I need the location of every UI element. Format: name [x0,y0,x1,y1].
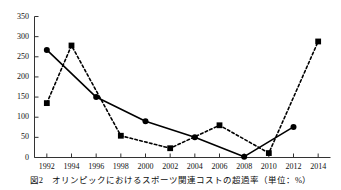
y-axis-label-300: 300 [3,32,29,41]
summer-games-series-marker [291,124,297,130]
x-axis-label-2014: 2014 [303,162,333,171]
winter-games-series-marker [69,43,75,49]
figure-container: 050100150200250300350 199219941996199820… [0,0,341,190]
summer-games-series-marker [93,94,99,100]
y-axis-label-350: 350 [3,12,29,21]
winter-games-series-marker [266,150,272,156]
winter-games-series-marker [217,122,223,128]
caption-text: 図2 オリンピックにおけるスポーツ関連コストの超過率（単位：%） [30,175,311,185]
y-axis-label-100: 100 [3,112,29,121]
winter-games-series-marker [167,145,173,151]
winter-games-series-marker [44,100,50,106]
winter-games-series-marker [118,133,124,139]
summer-games-series-line [47,50,294,157]
summer-games-series-marker [143,118,149,124]
y-axis-label-0: 0 [3,153,29,162]
figure-caption: 図2 オリンピックにおけるスポーツ関連コストの超過率（単位：%） [0,173,341,185]
axis-spines [35,17,331,158]
summer-games-series-marker [241,154,247,160]
y-axis-label-50: 50 [3,132,29,141]
y-axis-label-250: 250 [3,52,29,61]
y-axis-label-200: 200 [3,72,29,81]
y-axis-label-150: 150 [3,92,29,101]
summer-games-series-marker [44,47,50,53]
winter-games-series-marker [315,39,321,45]
